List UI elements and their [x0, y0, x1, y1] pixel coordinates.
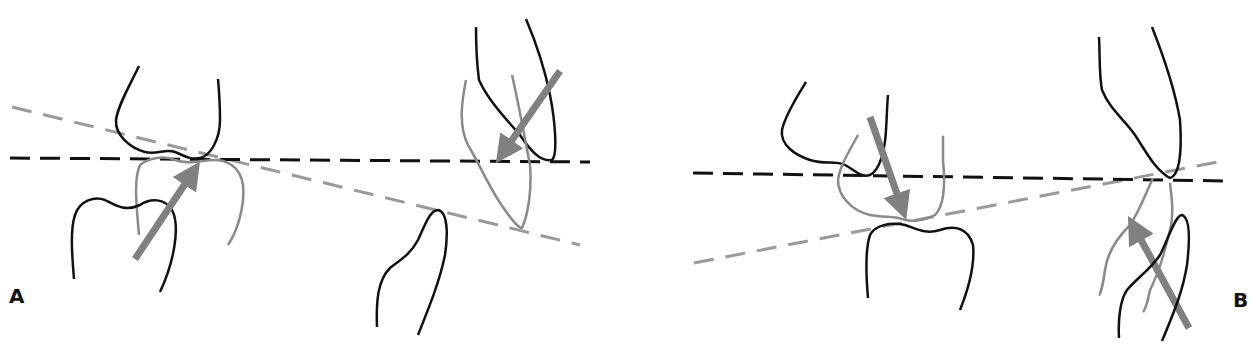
panel-label-a: A: [9, 286, 24, 306]
lower-molar-outline: [866, 224, 973, 310]
lower-incisor-outline: [1119, 215, 1189, 341]
reference-line: [10, 158, 590, 162]
panel-a: [10, 19, 590, 335]
displaced-incisor-outline: [462, 75, 531, 228]
panel-label-b: B: [1233, 290, 1248, 310]
lower-incisor-outline: [377, 210, 447, 335]
occlusal-plane-line: [12, 107, 580, 245]
occlusion-diagram: [0, 0, 1251, 347]
force-arrow-up-right: [135, 172, 193, 259]
force-arrow-up-left: [1134, 227, 1189, 328]
displaced-incisor-outline: [1099, 178, 1172, 312]
panel-b: [693, 27, 1230, 341]
upper-incisor-outline: [1099, 27, 1181, 178]
force-arrow-down-left: [503, 71, 560, 153]
lower-molar-outline: [72, 199, 176, 292]
